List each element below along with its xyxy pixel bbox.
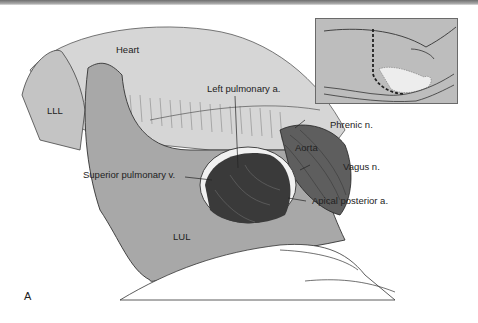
label-lul: LUL bbox=[173, 232, 190, 242]
label-apical-posterior-artery: Apical posterior a. bbox=[312, 196, 388, 206]
label-heart: Heart bbox=[116, 45, 139, 55]
inset-diagram bbox=[316, 19, 459, 105]
label-superior-pulmonary-vein: Superior pulmonary v. bbox=[83, 170, 175, 180]
label-left-pulmonary-artery: Left pulmonary a. bbox=[207, 84, 280, 94]
orientation-inset bbox=[315, 18, 458, 104]
label-phrenic-nerve: Phrenic n. bbox=[330, 120, 373, 130]
label-aorta: Aorta bbox=[295, 143, 318, 153]
label-lll: LLL bbox=[47, 106, 63, 116]
panel-letter: A bbox=[24, 290, 31, 302]
label-vagus-nerve: Vagus n. bbox=[343, 162, 380, 172]
